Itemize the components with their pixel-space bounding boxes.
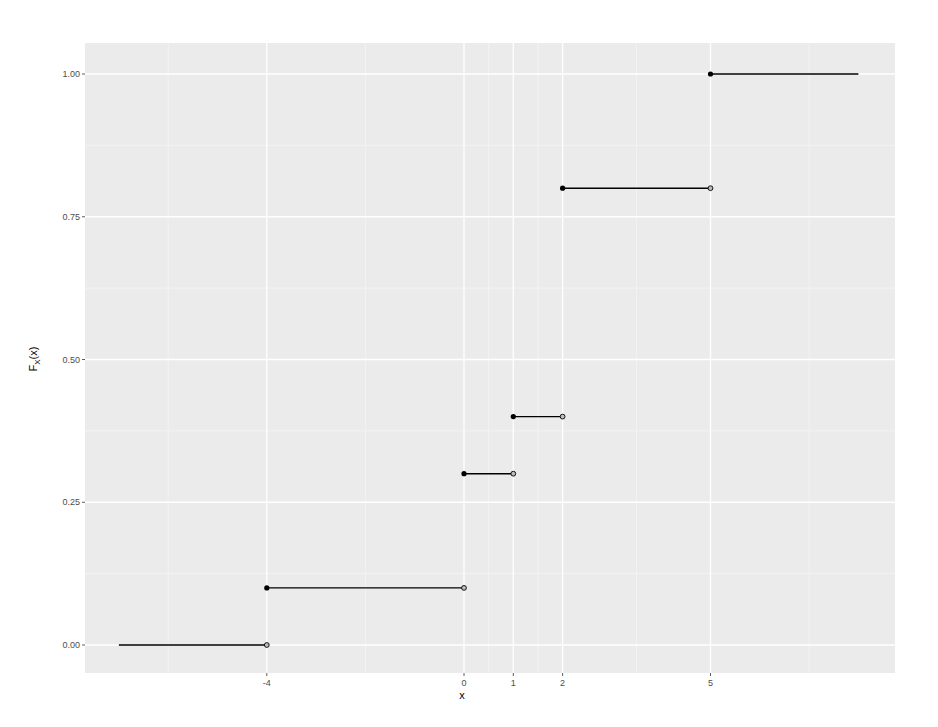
y-axis-title: FX(x) <box>27 347 42 372</box>
x-tick-label: 2 <box>560 678 565 688</box>
open-point <box>560 414 565 419</box>
y-tick-label: 0.00 <box>62 640 80 650</box>
open-point <box>264 643 269 648</box>
svg-text:FX(x): FX(x) <box>27 347 42 372</box>
cdf-step-chart: 0.000.250.500.751.00 -40125 x FX(x) <box>0 0 938 727</box>
open-point <box>708 186 713 191</box>
closed-point <box>264 585 269 590</box>
panel-background <box>85 43 895 673</box>
closed-point <box>560 186 565 191</box>
x-tick-label: 1 <box>511 678 516 688</box>
y-tick-label: 0.75 <box>62 212 80 222</box>
x-axis: -40125 <box>263 673 713 688</box>
y-axis: 0.000.250.500.751.00 <box>62 69 85 650</box>
x-axis-title: x <box>459 689 465 701</box>
y-tick-label: 0.25 <box>62 497 80 507</box>
open-point <box>511 471 516 476</box>
y-tick-label: 0.50 <box>62 355 80 365</box>
closed-point <box>461 471 466 476</box>
open-point <box>462 586 467 591</box>
x-tick-label: -4 <box>263 678 271 688</box>
closed-point <box>511 414 516 419</box>
closed-point <box>708 71 713 76</box>
x-tick-label: 0 <box>461 678 466 688</box>
y-tick-label: 1.00 <box>62 69 80 79</box>
x-tick-label: 5 <box>708 678 713 688</box>
y-axis-title-tail: (x) <box>27 347 39 360</box>
